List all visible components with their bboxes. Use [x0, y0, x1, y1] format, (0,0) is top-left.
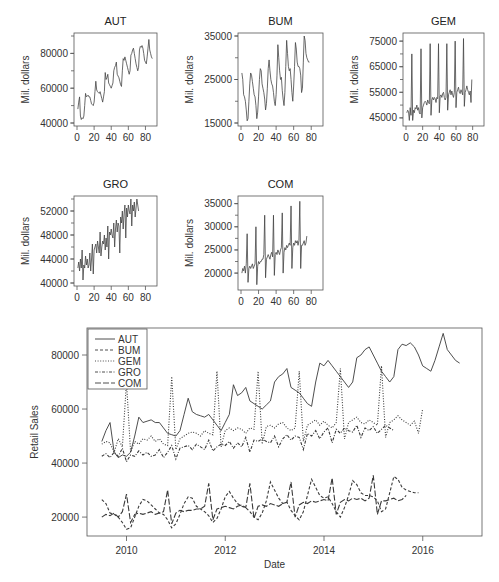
x-tick-label: 40: [271, 132, 283, 143]
y-tick-label: 45000: [369, 112, 397, 123]
main-series-bum: [102, 477, 419, 530]
x-tick-label: 0: [74, 292, 80, 303]
x-tick-label: 60: [288, 296, 300, 307]
y-tick-label: 25000: [204, 74, 232, 85]
y-tick-label: 44000: [40, 254, 68, 265]
x-tick-label: 40: [434, 132, 446, 143]
y-axis-label: Mil. dollars: [184, 56, 195, 104]
series-line-gem: [407, 39, 472, 121]
y-tick-label: 40000: [40, 118, 68, 129]
x-tick-label: 20: [89, 132, 101, 143]
series-line-com: [242, 201, 307, 284]
x-tick-label: 60: [123, 292, 135, 303]
legend-label: COM: [118, 378, 141, 389]
x-tick-label: 20: [253, 296, 265, 307]
x-tick-label: 2012: [214, 545, 237, 556]
legend-label: GEM: [118, 356, 141, 367]
x-tick-label: 80: [140, 132, 152, 143]
panel-gro: GRO40000440004800052000020406080Mil. dol…: [20, 178, 157, 303]
panel-com: COM20000250003000035000020406080Mil. dol…: [184, 178, 323, 307]
y-tick-label: 40000: [51, 458, 79, 469]
y-tick-label: 30000: [204, 221, 232, 232]
y-tick-label: 80000: [51, 350, 79, 361]
x-tick-label: 80: [467, 132, 479, 143]
series-line-gro: [78, 199, 139, 280]
x-tick-label: 0: [238, 132, 244, 143]
legend-label: GRO: [118, 367, 141, 378]
x-tick-label: 60: [123, 132, 135, 143]
y-tick-label: 55000: [369, 87, 397, 98]
panel-title: BUM: [268, 15, 292, 27]
panel-title: GRO: [103, 178, 129, 190]
y-tick-label: 40000: [40, 278, 68, 289]
x-tick-label: 80: [306, 132, 318, 143]
x-tick-label: 20: [417, 132, 429, 143]
x-tick-label: 2014: [313, 545, 336, 556]
figure: AUT400006000080000020406080Mil. dollarsB…: [0, 0, 499, 582]
plot-frame: [403, 33, 484, 126]
x-tick-label: 40: [271, 296, 283, 307]
y-tick-label: 60000: [51, 404, 79, 415]
series-line-aut: [78, 39, 152, 119]
main-series-aut: [102, 333, 460, 457]
panel-bum: BUM150002500035000020406080Mil. dollars: [184, 15, 323, 143]
x-tick-label: 60: [288, 132, 300, 143]
y-tick-label: 35000: [204, 31, 232, 42]
main-series-com: [102, 475, 406, 524]
plot-frame: [74, 196, 157, 286]
y-tick-label: 20000: [204, 268, 232, 279]
y-tick-label: 65000: [369, 61, 397, 72]
y-tick-label: 15000: [204, 118, 232, 129]
legend-label: BUM: [118, 345, 140, 356]
panel-gem: GEM45000550006500075000020406080Mil. dol…: [349, 15, 484, 143]
x-tick-label: 60: [450, 132, 462, 143]
x-tick-label: 80: [140, 292, 152, 303]
legend-label: AUT: [118, 334, 138, 345]
panel-title: GEM: [431, 15, 456, 27]
x-tick-label: 40: [106, 292, 118, 303]
x-tick-label: 20: [253, 132, 265, 143]
x-tick-label: 2016: [412, 545, 435, 556]
y-axis-label: Mil. dollars: [349, 56, 360, 104]
x-tick-label: 0: [74, 132, 80, 143]
x-tick-label: 40: [106, 132, 118, 143]
y-tick-label: 52000: [40, 206, 68, 217]
y-tick-label: 20000: [51, 512, 79, 523]
x-axis-label: Date: [264, 559, 286, 570]
y-tick-label: 60000: [40, 83, 68, 94]
legend: AUTBUMGEMGROCOM: [88, 329, 147, 389]
x-tick-label: 80: [306, 296, 318, 307]
x-tick-label: 20: [89, 292, 101, 303]
y-tick-label: 25000: [204, 244, 232, 255]
x-tick-label: 0: [403, 132, 409, 143]
y-axis-label: Mil. dollars: [20, 56, 31, 104]
plot-frame: [74, 33, 157, 126]
panel-title: COM: [268, 178, 294, 190]
series-line-bum: [242, 36, 310, 121]
y-tick-label: 75000: [369, 36, 397, 47]
y-axis-label: Mil. dollars: [20, 217, 31, 265]
y-axis-label: Mil. dollars: [184, 219, 195, 267]
panel-title: AUT: [105, 15, 127, 27]
y-axis-label: Retail Sales: [29, 405, 40, 458]
x-tick-label: 0: [238, 296, 244, 307]
plot-frame: [238, 196, 323, 290]
panel-aut: AUT400006000080000020406080Mil. dollars: [20, 15, 157, 143]
x-tick-label: 2010: [115, 545, 138, 556]
y-tick-label: 48000: [40, 230, 68, 241]
y-tick-label: 35000: [204, 198, 232, 209]
y-tick-label: 80000: [40, 48, 68, 59]
